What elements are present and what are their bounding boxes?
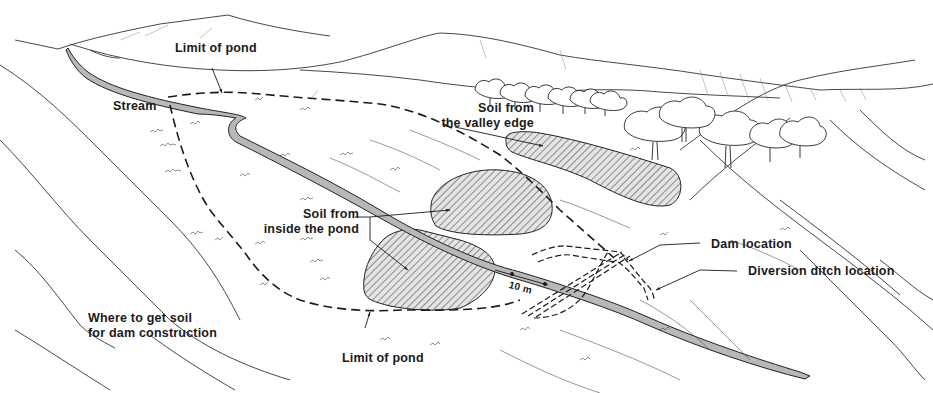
borrow-area-inside-pond-1 — [431, 170, 552, 235]
label-soil-valley-edge: Soil from the valley edge — [412, 101, 534, 131]
label-limit-of-pond-top: Limit of pond — [175, 41, 257, 56]
label-diversion-ditch-location: Diversion ditch location — [748, 264, 895, 279]
label-dam-location: Dam location — [711, 237, 792, 252]
label-soil-inside-pond-line1: Soil from — [255, 207, 359, 222]
label-soil-inside-pond: Soil from inside the pond — [255, 207, 359, 237]
label-soil-inside-pond-line2: inside the pond — [255, 222, 359, 237]
caption-line2: for dam construction — [88, 326, 217, 341]
label-stream: Stream — [113, 99, 157, 114]
label-soil-valley-edge-line2: the valley edge — [412, 116, 534, 131]
caption: Where to get soil for dam construction — [88, 311, 217, 341]
label-soil-valley-edge-line1: Soil from — [412, 101, 534, 116]
caption-line1: Where to get soil — [88, 311, 217, 326]
label-limit-of-pond-bottom: Limit of pond — [342, 351, 424, 366]
